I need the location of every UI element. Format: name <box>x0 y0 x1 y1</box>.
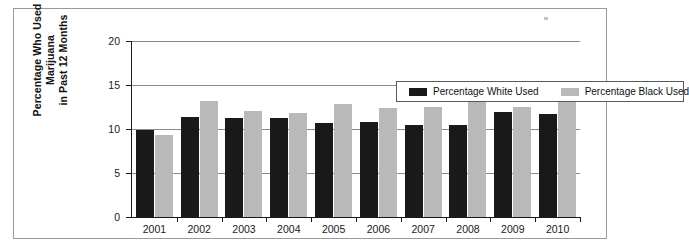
x-tick-label-2005: 2005 <box>311 223 356 235</box>
x-tick-mark-end <box>580 217 581 222</box>
bar-group-2009 <box>490 41 535 217</box>
bar-2004-series-1 <box>289 113 307 217</box>
y-axis-title-line-1: Percentage Who Used Marijuana <box>31 4 56 117</box>
legend-swatch-1 <box>561 88 579 96</box>
bar-2008-series-1 <box>468 97 486 217</box>
x-tick-mark-2007 <box>401 217 402 222</box>
x-tick-mark-2006 <box>356 217 357 222</box>
bar-2006-series-0 <box>360 122 378 217</box>
x-tick-label-2010: 2010 <box>535 223 580 235</box>
bar-group-2001 <box>132 41 177 217</box>
x-tick-mark-2004 <box>266 217 267 222</box>
bar-2001-series-1 <box>155 135 173 217</box>
bar-2006-series-1 <box>379 108 397 217</box>
bar-2010-series-1 <box>558 92 576 217</box>
x-tick-label-2008: 2008 <box>446 223 491 235</box>
y-tick-0: 0 <box>92 212 120 222</box>
x-tick-label-2007: 2007 <box>401 223 446 235</box>
bar-2002-series-1 <box>200 101 218 217</box>
x-tick-label-2001: 2001 <box>132 223 177 235</box>
bar-2005-series-1 <box>334 104 352 217</box>
bar-group-2006 <box>356 41 401 217</box>
bar-group-2008 <box>446 41 491 217</box>
bar-2005-series-0 <box>315 123 333 217</box>
x-tick-mark-2003 <box>222 217 223 222</box>
x-tick-label-2006: 2006 <box>356 223 401 235</box>
y-tick-15: 15 <box>92 80 120 90</box>
legend-label-1: Percentage Black Used <box>585 86 689 97</box>
bar-group-2002 <box>177 41 222 217</box>
bar-group-2010 <box>535 41 580 217</box>
bar-2003-series-0 <box>225 118 243 217</box>
legend-entry-0: Percentage White Used <box>409 82 539 101</box>
bar-2007-series-0 <box>405 125 423 217</box>
x-tick-label-2009: 2009 <box>490 223 535 235</box>
y-tick-10: 10 <box>92 124 120 134</box>
y-tick-20: 20 <box>92 36 120 46</box>
scan-artifact <box>544 17 548 20</box>
plot-area: Percentage White UsedPercentage Black Us… <box>132 41 580 217</box>
bar-group-2007 <box>401 41 446 217</box>
legend-entry-1: Percentage Black Used <box>561 82 689 101</box>
y-tick-label-20: 20 <box>92 36 120 46</box>
x-tick-label-2004: 2004 <box>266 223 311 235</box>
y-tick-label-0: 0 <box>92 212 120 222</box>
bar-2007-series-1 <box>424 107 442 217</box>
bar-2010-series-0 <box>539 114 557 217</box>
y-tick-label-10: 10 <box>92 124 120 134</box>
y-tick-5: 5 <box>92 168 120 178</box>
y-tick-mark-0 <box>126 217 132 218</box>
x-tick-mark-2008 <box>446 217 447 222</box>
bar-2002-series-0 <box>181 117 199 217</box>
y-axis-title-line-2: in Past 12 Months <box>57 15 69 106</box>
y-axis-title: Percentage Who Used Marijuana in Past 12… <box>31 0 61 140</box>
bar-group-2003 <box>222 41 267 217</box>
bar-2009-series-1 <box>513 107 531 217</box>
bar-2008-series-0 <box>449 125 467 217</box>
bar-2004-series-0 <box>270 118 288 217</box>
x-tick-mark-2009 <box>490 217 491 222</box>
bar-group-2005 <box>311 41 356 217</box>
x-tick-mark-2010 <box>535 217 536 222</box>
y-tick-label-15: 15 <box>92 80 120 90</box>
chart-legend: Percentage White UsedPercentage Black Us… <box>396 81 684 102</box>
x-tick-label-2002: 2002 <box>177 223 222 235</box>
x-tick-label-2003: 2003 <box>222 223 267 235</box>
bar-2009-series-0 <box>494 112 512 217</box>
legend-swatch-0 <box>409 88 427 96</box>
x-tick-mark-2005 <box>311 217 312 222</box>
legend-label-0: Percentage White Used <box>433 86 539 97</box>
bar-group-2004 <box>266 41 311 217</box>
chart-frame: Percentage Who Used Marijuana in Past 12… <box>13 8 607 239</box>
bar-2003-series-1 <box>244 111 262 217</box>
bar-2001-series-0 <box>136 130 154 217</box>
x-tick-mark-2002 <box>177 217 178 222</box>
y-tick-label-5: 5 <box>92 168 120 178</box>
